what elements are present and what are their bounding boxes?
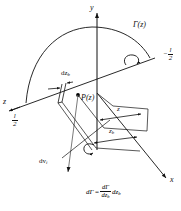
induced-velocity-subscript: i: [46, 160, 47, 165]
x-axis-label: x: [170, 176, 174, 184]
formula-denominator-subscript: b: [107, 194, 109, 199]
span-left-denominator: 2: [12, 121, 18, 128]
element-width-text: dz: [61, 69, 68, 77]
dimension-z-label: z: [117, 106, 120, 113]
circulation-curve-label: Γ(z): [133, 21, 146, 29]
induced-velocity-text: dv: [39, 157, 46, 165]
element-width-label: dzb: [61, 70, 70, 78]
dimension-z-arrows: [100, 114, 141, 120]
element-width-subscript: b: [68, 72, 70, 77]
vortex-rotation-arrow-right: [124, 55, 138, 65]
x-axis: [97, 93, 166, 178]
dimension-zb-arrows: [94, 137, 137, 143]
span-left-label: l 2: [12, 113, 18, 129]
formula-equals: =: [95, 188, 99, 196]
y-axis-label: y: [90, 4, 94, 12]
induced-velocity-label: dvi: [39, 158, 47, 166]
formula-denominator: dzb: [100, 192, 110, 200]
figure-drawing: [0, 0, 181, 211]
span-right-label: − l 2: [163, 47, 173, 63]
circulation-distribution-curve: [26, 27, 150, 103]
dimension-zb-label: zb: [109, 128, 114, 136]
dimension-zb-subscript: b: [112, 130, 114, 135]
lifting-line-z-axis: [9, 58, 155, 111]
point-label: P(z): [81, 94, 94, 102]
span-right-denominator: 2: [168, 55, 174, 62]
element-width-arrows: [48, 82, 73, 89]
span-left-fraction: l 2: [12, 113, 18, 129]
span-right-fraction: l 2: [168, 47, 174, 63]
formula-derivative-fraction: dΓ dzb: [100, 184, 110, 200]
circulation-element-formula: dΓ = dΓ dzb dzb: [86, 184, 121, 200]
formula-trailing: dzb: [112, 188, 121, 196]
lifting-line-figure: y x z Γ(z) P(z) dzb dvi z zb − l 2 l 2 d…: [0, 0, 181, 211]
z-axis-label: z: [3, 98, 6, 106]
formula-trailing-subscript: b: [118, 191, 120, 196]
formula-lhs: dΓ: [86, 188, 93, 196]
induced-velocity-vector: [68, 95, 78, 172]
